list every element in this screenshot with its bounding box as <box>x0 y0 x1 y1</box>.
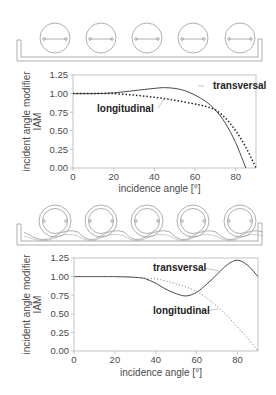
iam-chart-bottom: 0.000.250.500.751.001.25020406080inciden… <box>21 252 258 378</box>
x-axis-label: incidence angle [°] <box>120 367 202 378</box>
x-tick-label: 20 <box>110 354 121 365</box>
annotation-longitudinal: longitudinal <box>97 103 154 114</box>
y-tick-label: 0.50 <box>50 125 69 136</box>
double-glass-tube <box>177 205 209 237</box>
y-axis-label-iam: IAM <box>32 296 43 314</box>
tube <box>40 23 70 53</box>
x-tick-label: 40 <box>149 171 160 182</box>
tube <box>86 23 116 53</box>
y-tick-label: 0.25 <box>51 327 70 338</box>
x-tick-label: 0 <box>70 171 75 182</box>
x-axis-label: incidence angle [°] <box>119 183 201 194</box>
y-axis-label: incident angle modifier <box>21 254 32 355</box>
x-tick-label: 80 <box>230 171 241 182</box>
y-tick-label: 1.25 <box>51 252 70 263</box>
tube <box>225 23 255 53</box>
series-transversal <box>73 88 246 168</box>
cpc-reflector <box>24 231 263 240</box>
iam-chart-top: 0.000.250.500.751.001.25020406080inciden… <box>21 69 267 194</box>
y-axis-label: incident angle modifier <box>21 71 32 172</box>
collector-illustration-flat-absorber <box>17 23 262 61</box>
y-tick-label: 0.75 <box>51 290 70 301</box>
y-tick-label: 0.00 <box>50 162 69 173</box>
x-tick-label: 80 <box>232 354 243 365</box>
x-tick-label: 60 <box>191 354 202 365</box>
annotation-transversal: transversal <box>153 262 207 273</box>
y-tick-label: 0.50 <box>51 308 70 319</box>
y-tick-label: 0.75 <box>50 107 69 118</box>
x-tick-label: 60 <box>190 171 201 182</box>
double-glass-tube <box>224 205 256 237</box>
double-glass-tube <box>85 205 117 237</box>
tube <box>178 23 208 53</box>
double-glass-tube <box>39 205 71 237</box>
collector-illustration-cpc <box>17 205 263 245</box>
annotation-longitudinal: longitudinal <box>153 305 210 316</box>
annotation-transversal: transversal <box>213 80 267 91</box>
y-tick-label: 0.00 <box>51 345 70 356</box>
x-tick-label: 20 <box>108 171 119 182</box>
figure-canvas: 0.000.250.500.751.001.25020406080inciden… <box>0 0 276 395</box>
x-tick-label: 0 <box>71 354 76 365</box>
x-tick-label: 40 <box>150 354 161 365</box>
y-tick-label: 1.00 <box>50 88 69 99</box>
y-tick-label: 0.25 <box>50 144 69 155</box>
tube <box>132 23 162 53</box>
double-glass-tube <box>131 205 163 237</box>
y-tick-label: 1.25 <box>50 69 69 80</box>
y-tick-label: 1.00 <box>51 271 70 282</box>
y-axis-label-iam: IAM <box>32 113 43 131</box>
